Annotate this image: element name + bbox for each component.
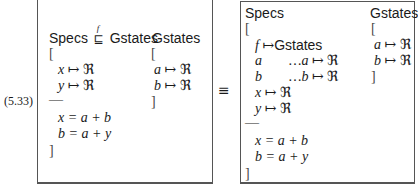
gstates-open-bracket: [ xyxy=(151,47,156,61)
predicate-2: b = a + y xyxy=(58,127,111,141)
predicate-1: x = a + b xyxy=(58,111,111,125)
schema-separator: — xyxy=(49,93,63,107)
left-schema-box: Specs ⊑f Gstates Gstates [ [ x ↦ ℜ a ↦ ℜ… xyxy=(37,0,213,184)
close-bracket: ] xyxy=(49,144,54,158)
predicate-1: x = a + b xyxy=(255,134,308,148)
declaration-a-path: …a ↦ ℜ xyxy=(289,54,338,68)
open-bracket: [ xyxy=(49,47,54,61)
declaration-b-path: …b ↦ ℜ xyxy=(289,70,338,84)
declaration-y: y ↦ ℜ xyxy=(255,102,291,116)
gstates-declaration-a: a ↦ ℜ xyxy=(154,63,191,77)
gstates-close-bracket: ] xyxy=(151,95,156,109)
declaration-y: y ↦ ℜ xyxy=(58,79,94,93)
specs-label: Specs xyxy=(49,30,88,46)
close-bracket: ] xyxy=(245,167,250,181)
gstates-open-bracket: [ xyxy=(371,22,376,36)
refines-icon: ⊑f xyxy=(94,33,104,45)
gstates-declaration-a: a ↦ ℜ xyxy=(374,38,411,52)
gstates-close-bracket: ] xyxy=(371,70,376,84)
equivalence-symbol: ≡ xyxy=(218,82,230,98)
declaration-f: f ↦Gstates xyxy=(255,38,322,53)
refines-superscript: f xyxy=(97,24,100,33)
gstates-declaration-b: b ↦ ℜ xyxy=(374,54,411,68)
declaration-a: a xyxy=(255,54,262,68)
schema-separator: — xyxy=(245,116,259,130)
specs-label: Specs xyxy=(245,6,284,20)
equation-number: (5.33) xyxy=(4,94,33,109)
predicate-2: b = a + y xyxy=(255,150,308,164)
left-schema-header: Specs ⊑f Gstates xyxy=(49,31,158,45)
gstates-label: Gstates xyxy=(110,30,158,46)
gstates-block-label: Gstates xyxy=(370,6,418,20)
declaration-x: x ↦ ℜ xyxy=(58,63,94,77)
right-schema-box: Specs Gstates [ [ f ↦Gstates a ↦ ℜ a …a … xyxy=(240,1,415,184)
declaration-b: b xyxy=(255,70,262,84)
open-bracket: [ xyxy=(245,22,250,36)
gstates-declaration-b: b ↦ ℜ xyxy=(154,79,191,93)
gstates-block-label: Gstates xyxy=(152,31,200,45)
declaration-x: x ↦ ℜ xyxy=(255,86,291,100)
